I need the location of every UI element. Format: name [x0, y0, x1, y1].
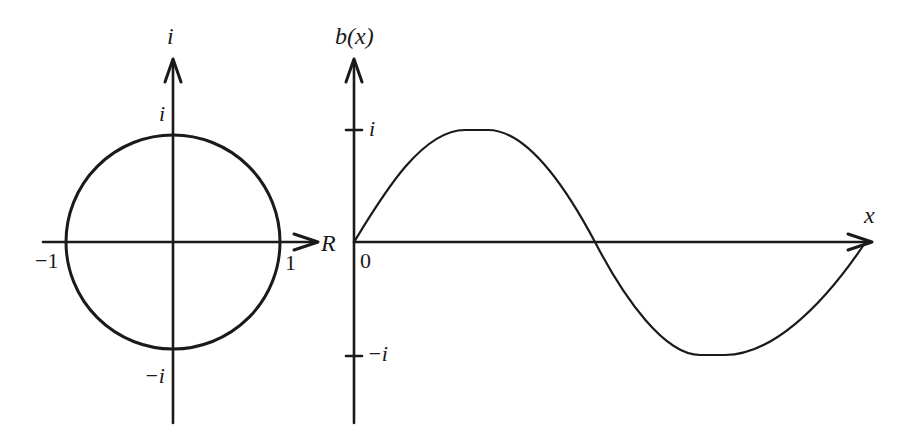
right-tick-label-upper: i [369, 118, 375, 140]
left-tick-label-left: −1 [35, 250, 58, 272]
left-tick-label-bottom: −i [144, 365, 165, 387]
left-horizontal-axis-label: R [321, 231, 336, 255]
right-panel [346, 59, 872, 423]
figure: i i −1 1 R −i b(x) i 0 −i x [0, 0, 904, 447]
origin-label: 0 [360, 250, 371, 272]
right-tick-label-lower: −i [367, 343, 388, 365]
left-panel [43, 59, 318, 423]
left-tick-label-top: i [159, 103, 165, 125]
right-horizontal-axis-label: x [864, 203, 875, 227]
left-tick-label-right: 1 [285, 252, 296, 274]
right-vertical-axis-label: b(x) [335, 24, 374, 48]
left-vertical-axis-label: i [167, 24, 174, 48]
figure-canvas [0, 0, 904, 447]
